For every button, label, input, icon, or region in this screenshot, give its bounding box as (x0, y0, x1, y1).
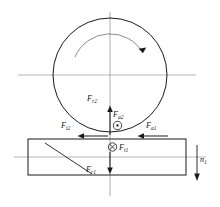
fr1-arrowhead-icon (107, 168, 113, 175)
force-diagram-canvas: Fr2 Fa2 Ft2 Fa1 Ft1 Fr1 n1 (0, 0, 220, 207)
out-of-page-dot-icon (116, 124, 118, 126)
label-ft1: Ft1 (118, 143, 129, 153)
fa1-arrowhead-icon (138, 133, 145, 139)
ft2-arrowhead-icon (78, 133, 85, 139)
fr2-arrowhead-icon (107, 106, 113, 113)
label-fr1: Fr1 (85, 165, 96, 175)
speed-direction-arrowhead-icon (194, 174, 200, 182)
label-ft2: Ft2 (60, 121, 71, 131)
shaft-diagonal-line (45, 143, 92, 174)
label-fa1: Fa1 (145, 121, 157, 131)
label-fa2: Fa2 (112, 110, 124, 120)
rotation-arc (75, 34, 143, 57)
label-n1: n1 (200, 155, 207, 165)
label-fr2: Fr2 (86, 94, 97, 104)
force-diagram-container: Fr2 Fa2 Ft2 Fa1 Ft1 Fr1 n1 (0, 0, 220, 207)
